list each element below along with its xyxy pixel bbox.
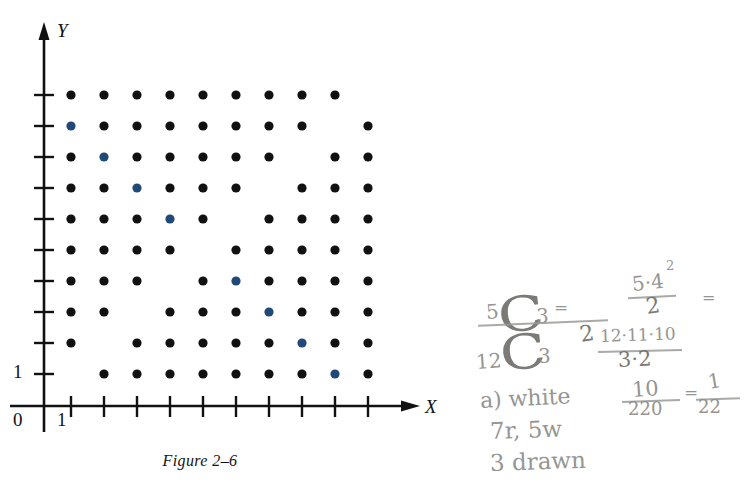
x-axis-label: X <box>425 396 437 418</box>
data-point <box>231 307 240 316</box>
hw-given-draw-count: 3 drawn <box>490 447 587 476</box>
data-point <box>132 369 141 378</box>
data-point <box>66 276 75 285</box>
scatter-plot <box>0 0 470 502</box>
hw-denominator-divisor: 3·2 <box>617 346 652 372</box>
hw-right-num-exponent: 2 <box>666 258 674 273</box>
data-point <box>231 183 240 192</box>
data-point <box>165 152 174 161</box>
data-point <box>198 338 207 347</box>
data-point <box>165 183 174 192</box>
data-point <box>330 183 339 192</box>
data-point <box>297 338 306 347</box>
data-point <box>330 369 339 378</box>
data-point <box>66 214 75 223</box>
hw-result-numerator: 1 <box>706 368 723 394</box>
data-point <box>297 276 306 285</box>
data-point <box>66 183 75 192</box>
hw-equals-second: = <box>702 288 715 307</box>
data-point <box>297 245 306 254</box>
data-point <box>330 214 339 223</box>
data-point <box>66 90 75 99</box>
data-point <box>330 152 339 161</box>
data-point <box>330 307 339 316</box>
hw-denominator-strike: 2 <box>578 320 596 347</box>
data-point <box>264 121 273 130</box>
data-point <box>363 338 372 347</box>
data-point <box>198 276 207 285</box>
hw-equals-first: = <box>554 297 568 317</box>
y-axis-label: Y <box>57 20 68 42</box>
data-point <box>198 90 207 99</box>
x-axis-first-tick-label: 1 <box>57 409 67 431</box>
data-point <box>363 276 372 285</box>
data-point <box>198 307 207 316</box>
data-point <box>198 214 207 223</box>
data-point <box>363 214 372 223</box>
data-point <box>264 307 273 316</box>
x-axis-arrow-icon <box>401 401 420 412</box>
hw-answer-fraction-denominator: 220 <box>628 398 662 419</box>
data-point <box>297 369 306 378</box>
data-point <box>132 338 141 347</box>
data-point <box>165 245 174 254</box>
data-point <box>363 307 372 316</box>
data-point <box>165 369 174 378</box>
data-point <box>132 245 141 254</box>
data-point <box>198 369 207 378</box>
data-point <box>363 245 372 254</box>
hw-denominator-subscript: 3 <box>538 344 551 368</box>
hw-right-num-top: 5·4 <box>631 269 665 296</box>
faint-top-artifact <box>448 0 451 14</box>
data-point <box>165 307 174 316</box>
data-point <box>99 90 108 99</box>
data-point <box>330 90 339 99</box>
data-point <box>66 152 75 161</box>
data-point <box>99 152 108 161</box>
data-point <box>231 121 240 130</box>
data-point <box>66 245 75 254</box>
hw-denominator-expression: 12·11·10 <box>600 323 676 346</box>
data-point <box>132 90 141 99</box>
data-point <box>132 276 141 285</box>
data-point <box>264 338 273 347</box>
data-point <box>66 338 75 347</box>
data-point <box>198 121 207 130</box>
data-point <box>330 276 339 285</box>
data-point <box>264 152 273 161</box>
data-point <box>363 183 372 192</box>
origin-tick-label: 0 <box>13 409 23 431</box>
data-point <box>330 245 339 254</box>
data-point <box>297 121 306 130</box>
data-point <box>231 338 240 347</box>
data-point <box>198 183 207 192</box>
data-point <box>132 121 141 130</box>
hw-denominator-prefix: 12 <box>475 348 502 374</box>
data-point <box>99 183 108 192</box>
data-point <box>231 152 240 161</box>
data-point <box>99 121 108 130</box>
figure-caption: Figure 2–6 <box>0 452 400 470</box>
data-point <box>231 90 240 99</box>
data-point <box>231 369 240 378</box>
data-point <box>264 90 273 99</box>
data-point <box>264 369 273 378</box>
data-point <box>297 183 306 192</box>
data-point <box>330 338 339 347</box>
data-point <box>66 307 75 316</box>
screenshot-root: Y X 0 1 1 Figure 2–6 5 C 3 = 12 C 3 5·4 … <box>0 0 748 502</box>
data-point <box>99 214 108 223</box>
data-point <box>165 121 174 130</box>
data-point <box>297 90 306 99</box>
data-point <box>264 245 273 254</box>
data-point <box>363 121 372 130</box>
y-axis-first-tick-label: 1 <box>13 361 23 383</box>
data-point <box>132 214 141 223</box>
y-axis-arrow-icon <box>39 22 50 40</box>
data-point <box>165 214 174 223</box>
figure-panel: Y X 0 1 1 Figure 2–6 <box>0 0 470 502</box>
data-point <box>99 307 108 316</box>
data-point <box>231 276 240 285</box>
data-point <box>165 90 174 99</box>
data-point <box>297 214 306 223</box>
